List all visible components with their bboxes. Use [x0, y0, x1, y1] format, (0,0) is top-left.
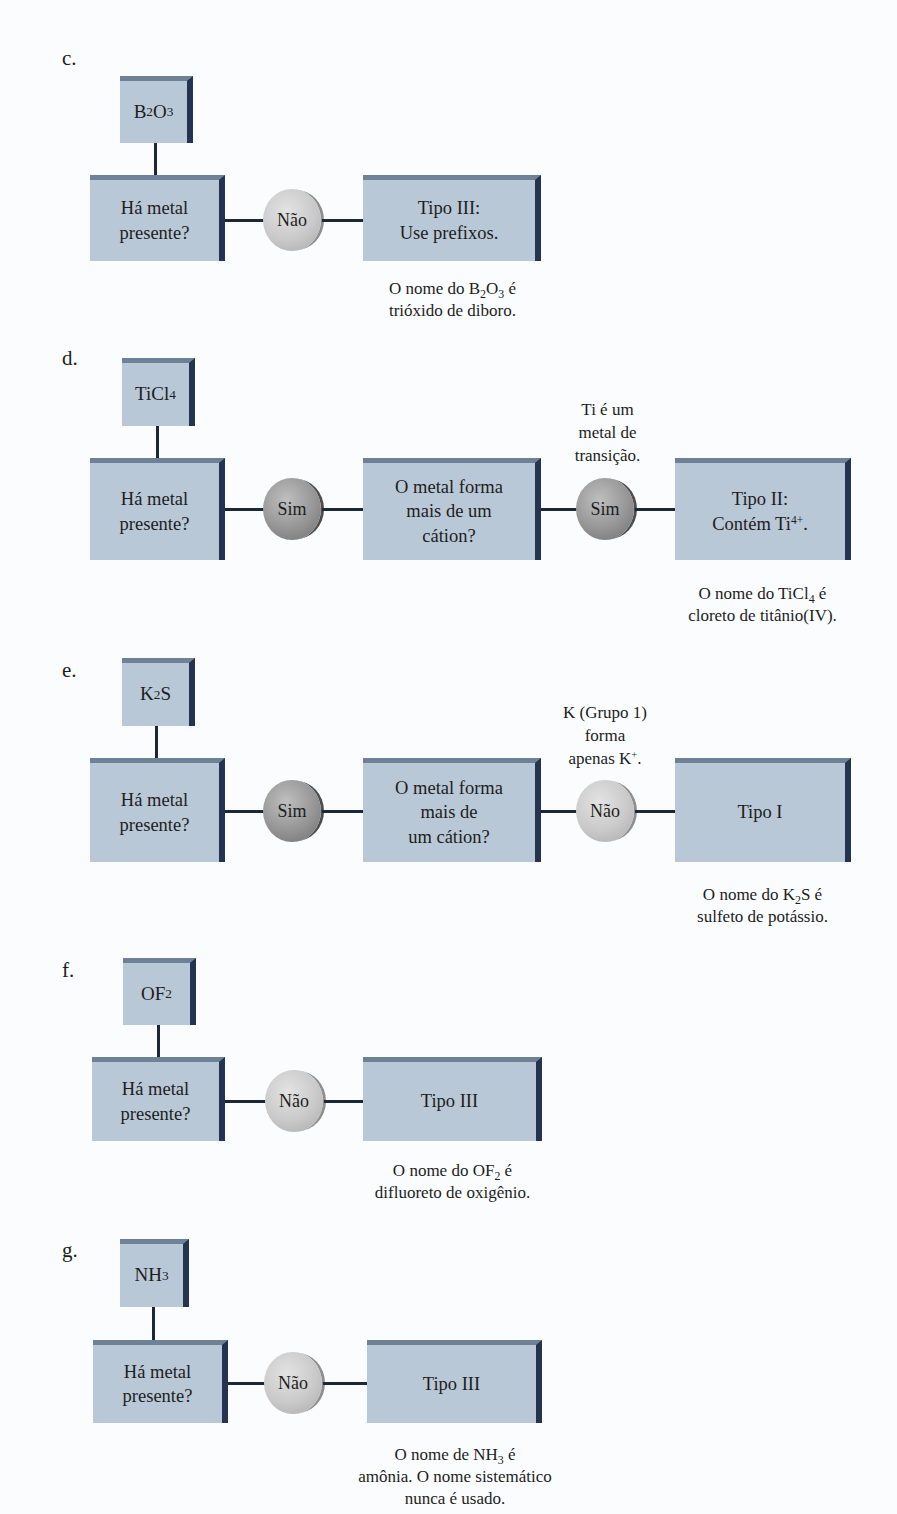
formula-box: NH3	[120, 1239, 189, 1307]
box-text: Há metal	[121, 198, 188, 218]
connector-line	[322, 508, 363, 511]
answer-circle-yes: Sim	[263, 478, 321, 540]
answer-circle-no: Não	[576, 780, 634, 842]
note-text: é	[504, 279, 516, 298]
note-text: sulfeto de potássio.	[697, 907, 828, 926]
note-text: S é	[801, 885, 822, 904]
formula-box: TiCl4	[122, 358, 195, 426]
annotation-text: .	[637, 749, 641, 768]
note-text: O nome do B	[389, 279, 480, 298]
note-text: é	[504, 1445, 516, 1464]
annotation-text: transição.	[575, 446, 641, 465]
note-text: O nome do OF	[393, 1161, 495, 1180]
result-note: O nome do B2O3 é trióxido de diboro.	[345, 278, 560, 322]
formula-text: B	[134, 100, 147, 125]
result-box-type-ii: Tipo II:Contém Ti4+.	[675, 458, 851, 560]
box-text: um cátion?	[408, 827, 490, 847]
answer-text: Não	[278, 1373, 308, 1394]
note-text: difluoreto de oxigênio.	[375, 1183, 530, 1202]
note-text: O nome do K	[703, 885, 795, 904]
question-box-metal-present: Há metalpresente?	[92, 1057, 225, 1141]
part-label: d.	[62, 348, 78, 369]
question-box-metal-present: Há metalpresente?	[90, 758, 225, 862]
note-text: é	[815, 584, 827, 603]
box-text: O metal forma	[395, 477, 503, 497]
formula-text: TiCl	[135, 382, 169, 407]
part-label: f.	[62, 960, 74, 981]
connector-line	[225, 810, 265, 813]
formula-text: OF	[141, 982, 165, 1007]
answer-circle-yes: Sim	[263, 780, 321, 842]
note-text: nunca é usado.	[405, 1489, 506, 1508]
question-box-multiple-cations: O metal formamais de umcátion?	[363, 458, 541, 560]
box-text: Tipo I	[737, 800, 782, 824]
box-text: Use prefixos.	[400, 223, 499, 243]
connector-line	[225, 1100, 267, 1103]
connector-line	[322, 810, 363, 813]
box-text: Há metal	[124, 1362, 191, 1382]
box-text: mais de um	[406, 501, 491, 521]
formula-text: O	[153, 100, 167, 125]
connector-line	[322, 219, 363, 222]
box-text: Contém Ti	[712, 514, 791, 534]
connector-line	[541, 810, 577, 813]
result-note: O nome do TiCl4 é cloreto de titânio(IV)…	[655, 583, 870, 627]
result-box-type-iii: Tipo III:Use prefixos.	[363, 175, 541, 261]
connector-line	[154, 143, 157, 176]
connector-line	[635, 810, 675, 813]
box-text: .	[803, 514, 808, 534]
box-text: presente?	[120, 223, 190, 243]
question-box-multiple-cations: O metal formamais deum cátion?	[363, 758, 541, 862]
result-box-type-iii: Tipo III	[367, 1340, 542, 1423]
answer-circle-yes: Sim	[576, 478, 634, 540]
question-box-metal-present: Há metalpresente?	[90, 175, 225, 261]
note-text: O nome de NH	[394, 1445, 497, 1464]
charge-superscript: 4+	[791, 513, 803, 525]
answer-text: Não	[590, 801, 620, 822]
formula-box: B2O3	[120, 76, 193, 143]
connector-line	[228, 1382, 266, 1385]
connector-line	[157, 1025, 160, 1058]
annotation-text: K (Grupo 1)	[563, 703, 647, 722]
box-text: presente?	[123, 1386, 193, 1406]
annotation-text: forma	[585, 726, 626, 745]
note-text: é	[500, 1161, 512, 1180]
connector-line	[323, 1382, 367, 1385]
part-label: g.	[62, 1240, 78, 1261]
answer-text: Não	[277, 210, 307, 231]
result-note: O nome do OF2 é difluoreto de oxigênio.	[345, 1160, 560, 1204]
formula-text: S	[160, 682, 171, 707]
note-text: O nome do TiCl	[699, 584, 809, 603]
box-text: Tipo III	[421, 1089, 478, 1113]
connector-line	[155, 726, 158, 759]
formula-box: OF2	[123, 958, 196, 1025]
note-text: O	[486, 279, 498, 298]
annotation-text: apenas K	[569, 749, 632, 768]
box-text: Há metal	[121, 790, 188, 810]
annotation-transition-metal: Ti é um metal de transição.	[555, 399, 660, 468]
box-text: Há metal	[122, 1079, 189, 1099]
annotation-group-1: K (Grupo 1) forma apenas K+.	[545, 702, 665, 771]
part-label: e.	[62, 660, 77, 681]
answer-text: Não	[279, 1091, 309, 1112]
connector-line	[324, 1100, 363, 1103]
connector-line	[225, 219, 265, 222]
box-text: mais de	[420, 802, 477, 822]
question-box-metal-present: Há metalpresente?	[90, 458, 225, 560]
answer-circle-no: Não	[263, 189, 321, 251]
connector-line	[541, 508, 577, 511]
answer-text: Sim	[590, 499, 619, 520]
formula-text: NH	[134, 1263, 161, 1288]
formula-text: K	[140, 682, 154, 707]
answer-text: Sim	[277, 801, 306, 822]
connector-line	[156, 426, 159, 459]
note-text: amônia. O nome sistemático	[358, 1467, 552, 1486]
formula-box: K2S	[122, 658, 195, 726]
question-box-metal-present: Há metalpresente?	[93, 1340, 228, 1423]
answer-circle-no: Não	[265, 1070, 323, 1132]
box-text: presente?	[120, 815, 190, 835]
result-box-type-iii: Tipo III	[363, 1057, 542, 1141]
box-text: Tipo III:	[418, 198, 481, 218]
box-text: Há metal	[121, 489, 188, 509]
nomenclature-flowcharts: c. B2O3 Há metalpresente? Não Tipo III:U…	[0, 0, 897, 1514]
